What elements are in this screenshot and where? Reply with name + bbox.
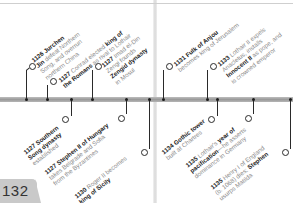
event-pin-icon (166, 63, 173, 70)
connector-line (163, 70, 164, 99)
page-number: 132 (0, 179, 37, 203)
event-pin-icon (50, 78, 57, 85)
event-pin-icon (245, 115, 252, 122)
connector-line (26, 70, 27, 99)
event-pin-icon (141, 149, 148, 156)
connector-line (126, 101, 127, 114)
event-pin-icon (208, 116, 215, 123)
event-pin-icon (62, 116, 69, 123)
connector-line (217, 101, 218, 116)
connector-line (207, 70, 208, 99)
connector-line (47, 85, 48, 99)
top-rule (0, 3, 293, 4)
connector-line (92, 70, 93, 99)
connector-line (71, 101, 72, 116)
connector-line (290, 101, 291, 149)
page-number-tab-corner (35, 179, 41, 203)
event-pin-icon (282, 149, 289, 156)
connector-line (253, 101, 254, 114)
connector-line (149, 101, 150, 149)
event-pin-icon (118, 115, 125, 122)
timeline-bar (0, 97, 293, 102)
event-pin-icon (210, 63, 217, 70)
